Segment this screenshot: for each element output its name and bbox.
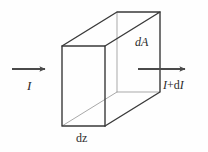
outgoing-intensity-dI: I bbox=[180, 78, 184, 92]
area-element-label: dA bbox=[135, 36, 148, 48]
volume-element-diagram bbox=[0, 0, 208, 152]
outgoing-intensity-plus: + bbox=[167, 78, 174, 92]
hidden-edge-bottom-back-left-diagonal bbox=[62, 92, 117, 126]
outgoing-intensity-label: I+dI bbox=[163, 79, 184, 91]
figure-container: I I+dI dA dz bbox=[0, 0, 208, 152]
depth-element-label: dz bbox=[76, 132, 87, 144]
incoming-intensity-label: I bbox=[27, 79, 31, 92]
front-face-outline bbox=[62, 46, 105, 126]
